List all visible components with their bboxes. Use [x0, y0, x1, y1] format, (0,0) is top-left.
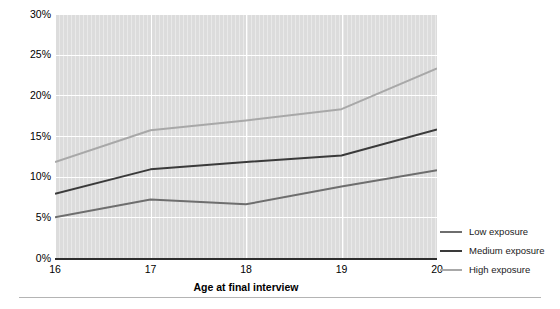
chart-legend: Low exposureMedium exposureHigh exposure	[440, 222, 558, 279]
legend-item[interactable]: High exposure	[440, 260, 558, 279]
series-layer	[55, 14, 437, 258]
x-axis-tick-label: 19	[322, 263, 362, 275]
y-axis-tick-label: 15%	[3, 131, 51, 142]
legend-line-swatch	[440, 269, 462, 271]
y-axis-tick-label: 30%	[3, 9, 51, 20]
y-axis-tick-label: 25%	[3, 49, 51, 60]
series-line	[55, 68, 437, 162]
legend-line-swatch	[440, 231, 462, 233]
x-axis-tick-label: 18	[226, 263, 266, 275]
x-axis-title: Age at final interview	[55, 281, 437, 293]
x-axis-tick-label: 16	[35, 263, 75, 275]
y-axis-tick-label: 10%	[3, 171, 51, 182]
footer-divider	[19, 297, 541, 298]
series-line	[55, 170, 437, 217]
y-axis-tick-label: 0%	[3, 253, 51, 264]
legend-item[interactable]: Medium exposure	[440, 241, 558, 260]
line-chart-figure: 30%25%20%15%10%5%0% 1617181920 Age at fi…	[0, 0, 560, 309]
legend-item-label: High exposure	[469, 264, 530, 275]
x-axis-line	[55, 258, 437, 260]
x-axis-tick-label: 17	[131, 263, 171, 275]
legend-line-swatch	[440, 250, 462, 252]
legend-item-label: Medium exposure	[469, 245, 545, 256]
plot-area	[55, 14, 437, 258]
legend-item[interactable]: Low exposure	[440, 222, 558, 241]
legend-item-label: Low exposure	[469, 226, 528, 237]
series-line	[55, 129, 437, 193]
y-axis-tick-label: 20%	[3, 90, 51, 101]
y-axis-tick-label: 5%	[3, 212, 51, 223]
